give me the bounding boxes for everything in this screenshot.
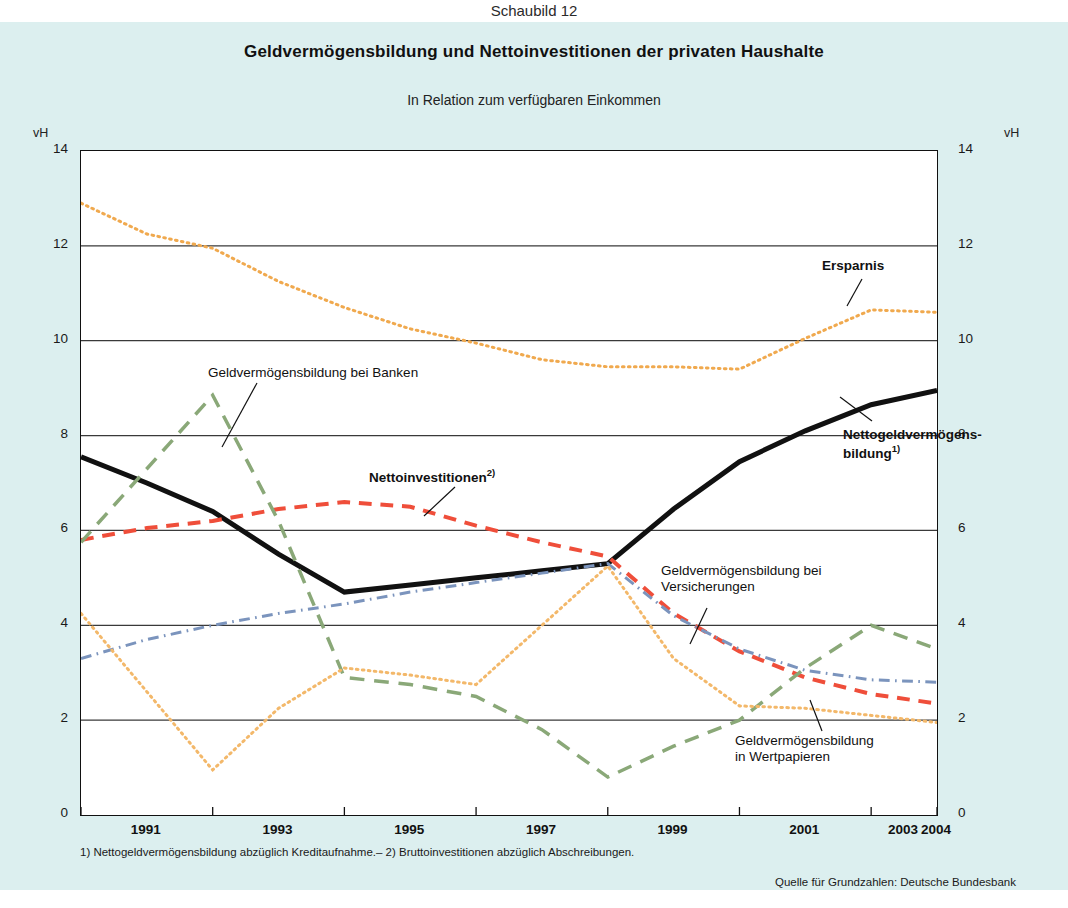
annotation-nettoinvestitionen-text: Nettoinvestitionen [369,470,487,485]
y-axis-tick-label: 14 [958,141,998,156]
x-axis-tick-label: 1993 [233,822,323,837]
annotation-nettogeld-line2: bildung [843,446,892,461]
series-line [81,502,937,704]
y-axis-tick-label: 14 [28,141,68,156]
annotation-banken: Geldvermögensbildung bei Banken [208,365,418,381]
annotation-ersparnis: Ersparnis [822,258,884,274]
x-tick-marks [81,807,937,815]
annotation-nettogeld-line1: Nettogeldvermögens- [843,427,982,442]
x-axis-tick-label: 1997 [496,822,586,837]
plot-area [80,150,938,816]
annotation-versicherungen-line2: Versicherungen [661,579,755,594]
annotation-versicherungen: Geldvermögensbildung bei Versicherungen [661,563,822,596]
chart-subtitle: In Relation zum verfügbaren Einkommen [0,92,1068,108]
x-axis-tick-label: 2001 [759,822,849,837]
x-axis-tick-label: 2004 [891,822,981,837]
annotation-wertpapiere-line1: Geldvermögensbildung [735,733,874,748]
y-axis-tick-label: 2 [28,710,68,725]
annotation-wertpapiere: Geldvermögensbildung in Wertpapieren [735,733,874,766]
y-axis-tick-label: 0 [28,805,68,820]
series-lines [81,203,937,777]
y-axis-tick-label: 4 [28,615,68,630]
x-axis-tick-label: 1991 [101,822,191,837]
chart-title: Geldvermögensbildung und Nettoinvestitio… [0,42,1068,62]
y-axis-tick-label: 4 [958,615,998,630]
gridlines [81,246,937,720]
y-axis-tick-label: 0 [958,805,998,820]
x-axis-tick-label: 1999 [628,822,718,837]
series-line [81,203,937,369]
chart-canvas [81,151,937,815]
figure-number: Schaubild 12 [0,0,1068,22]
y-axis-tick-label: 10 [958,331,998,346]
x-axis-tick-label: 1995 [364,822,454,837]
source-note: Quelle für Grundzahlen: Deutsche Bundesb… [775,876,1016,888]
series-line [81,391,937,593]
y-axis-tick-label: 8 [28,426,68,441]
annotation-wertpapiere-line2: in Wertpapieren [735,749,830,764]
annotation-nettoinvestitionen-sup: 2) [487,467,495,478]
y-axis-tick-label: 6 [28,520,68,535]
annotation-ersparnis-text: Ersparnis [822,258,884,273]
annotation-nettogeld-sup: 1) [892,443,900,454]
y-axis-tick-label: 10 [28,331,68,346]
y-axis-tick-label: 6 [958,520,998,535]
y-axis-unit-right: vH [1004,126,1019,140]
chart-page: Schaubild 12 Geldvermögensbildung und Ne… [0,0,1068,908]
y-axis-tick-label: 12 [958,236,998,251]
annotation-banken-text: Geldvermögensbildung bei Banken [208,365,418,380]
annotation-nettoinvestitionen: Nettoinvestitionen2) [369,467,495,486]
y-axis-tick-label: 12 [28,236,68,251]
bottom-strip [0,890,1068,908]
annotation-nettogeldvermoegensbildung: Nettogeldvermögens- bildung1) [843,427,982,462]
annotation-versicherungen-line1: Geldvermögensbildung bei [661,563,822,578]
y-axis-tick-label: 2 [958,710,998,725]
footnote: 1) Nettogeldvermögensbildung abzüglich K… [80,846,634,858]
y-axis-unit-left: vH [33,126,48,140]
